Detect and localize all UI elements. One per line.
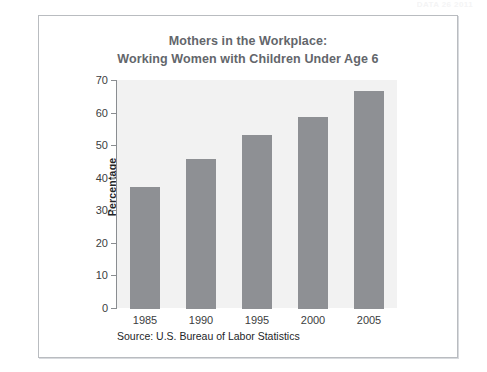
y-tick-mark xyxy=(111,80,116,81)
x-tick-label-1995: 1995 xyxy=(245,314,269,326)
bar-2005 xyxy=(354,91,384,309)
y-tick-mark xyxy=(111,178,116,179)
chart-figure-frame: Mothers in the Workplace: Working Women … xyxy=(38,15,458,358)
plot-region: 010203040506070 19851990199520002005 xyxy=(117,80,397,309)
y-tick-label: 30 xyxy=(96,204,108,216)
clipped-header-text: DATA 26 2011 xyxy=(417,0,473,7)
y-tick-label: 60 xyxy=(96,107,108,119)
y-tick-mark xyxy=(111,308,116,309)
source-note: Source: U.S. Bureau of Labor Statistics xyxy=(117,330,300,342)
y-axis-line xyxy=(116,80,117,309)
chart-title-line-2: Working Women with Children Under Age 6 xyxy=(39,50,457,68)
x-tick-label-1990: 1990 xyxy=(189,314,213,326)
y-tick-mark xyxy=(111,243,116,244)
y-tick-label: 20 xyxy=(96,237,108,249)
chart-title: Mothers in the Workplace: Working Women … xyxy=(39,32,457,68)
y-tick-mark xyxy=(111,275,116,276)
y-tick-mark xyxy=(111,113,116,114)
bar-1995 xyxy=(242,135,272,309)
y-tick-label: 0 xyxy=(102,302,108,314)
x-tick-label-2000: 2000 xyxy=(301,314,325,326)
x-tick-label-2005: 2005 xyxy=(357,314,381,326)
y-tick-mark xyxy=(111,210,116,211)
bar-2000 xyxy=(298,117,328,309)
y-tick-label: 10 xyxy=(96,269,108,281)
y-tick-label: 70 xyxy=(96,74,108,86)
bar-1990 xyxy=(186,159,216,309)
x-tick-label-1985: 1985 xyxy=(133,314,157,326)
y-tick-label: 50 xyxy=(96,139,108,151)
bar-1985 xyxy=(130,187,160,309)
y-tick-mark xyxy=(111,145,116,146)
y-tick-label: 40 xyxy=(96,172,108,184)
chart-title-line-1: Mothers in the Workplace: xyxy=(39,32,457,50)
